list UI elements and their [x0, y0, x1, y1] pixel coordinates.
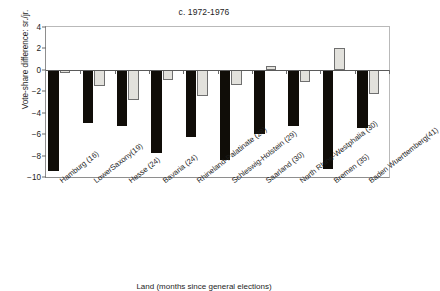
bar-junior: [197, 70, 207, 96]
y-tick-mark: [42, 48, 46, 49]
bar-junior: [369, 70, 379, 94]
y-axis-title: Vote-share difference: sr./jr.: [21, 0, 30, 140]
bar-junior: [163, 70, 173, 80]
y-tick-mark: [42, 155, 46, 156]
y-tick-mark: [42, 177, 46, 178]
bar-junior: [94, 70, 104, 86]
bar-senior: [151, 70, 161, 154]
bar-junior: [334, 48, 344, 69]
bar-group: [183, 27, 217, 177]
bar-senior: [288, 70, 298, 126]
bar-senior: [357, 70, 367, 128]
x-axis-title: Land (months since general elections): [0, 282, 408, 291]
bar-group: [46, 27, 80, 177]
x-tick-mark: [389, 70, 390, 74]
y-tick-mark: [42, 134, 46, 135]
chart-title: c. 1972-1976: [0, 7, 408, 17]
bar-junior: [300, 70, 310, 82]
y-tick-mark: [42, 91, 46, 92]
y-tick-mark: [42, 112, 46, 113]
bar-junior: [231, 70, 241, 86]
bar-senior: [220, 70, 230, 160]
bar-group: [149, 27, 183, 177]
bar-senior: [117, 70, 127, 126]
bar-senior: [83, 70, 93, 124]
bar-senior: [48, 70, 58, 171]
bar-junior: [128, 70, 138, 100]
y-tick-mark: [42, 27, 46, 28]
zero-baseline: [46, 70, 389, 71]
bar-senior: [186, 70, 196, 138]
